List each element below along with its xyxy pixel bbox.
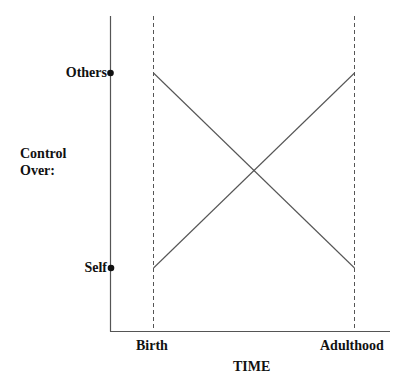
x-axis-title: TIME — [233, 358, 270, 375]
y-axis-title-line2: Over: — [20, 162, 90, 179]
y-axis-title: Control Over: — [20, 145, 90, 179]
control-over-time-diagram — [0, 0, 410, 387]
y-tick-label-self: Self — [84, 259, 107, 276]
others-tick-dot — [107, 70, 114, 77]
self-tick-dot — [108, 265, 115, 272]
y-axis-title-line1: Control — [20, 145, 90, 162]
x-tick-label-adulthood: Adulthood — [320, 337, 384, 354]
y-tick-label-others: Others — [66, 64, 107, 81]
x-tick-label-birth: Birth — [136, 337, 168, 354]
